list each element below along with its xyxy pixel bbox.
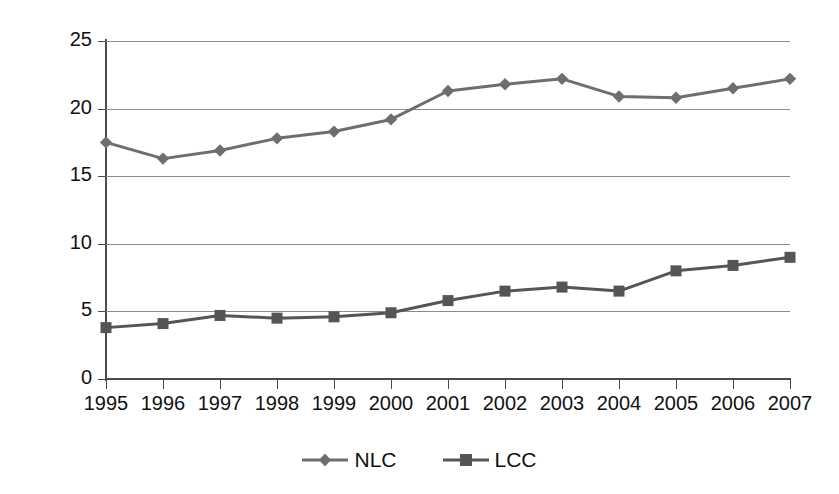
x-tick-mark: [619, 380, 620, 389]
y-tick-mark: [98, 176, 106, 177]
x-tick-mark: [277, 380, 278, 389]
x-tick-mark: [790, 380, 791, 389]
y-tick-label: 10: [46, 231, 92, 254]
y-tick-label: 20: [46, 96, 92, 119]
y-axis-tick-labels: 0510152025: [42, 41, 92, 379]
x-tick-mark: [391, 380, 392, 389]
gridline: [106, 311, 790, 312]
y-tick-mark: [98, 244, 106, 245]
x-tick-label: 2007: [755, 392, 825, 415]
legend-label-lcc: LCC: [495, 448, 537, 472]
y-tick-label: 25: [46, 28, 92, 51]
square-marker-icon: [443, 451, 489, 469]
x-tick-mark: [562, 380, 563, 389]
gridline: [106, 41, 790, 42]
gridline: [106, 109, 790, 110]
gridline: [106, 244, 790, 245]
x-tick-mark: [505, 380, 506, 389]
x-tick-mark: [733, 380, 734, 389]
y-tick-label: 15: [46, 163, 92, 186]
line-chart: USD per Enplanement 0510152025 199519961…: [0, 0, 839, 494]
legend-label-nlc: NLC: [354, 448, 396, 472]
x-tick-mark: [220, 380, 221, 389]
x-tick-mark: [448, 380, 449, 389]
gridline: [106, 176, 790, 177]
y-tick-label: 0: [46, 366, 92, 389]
x-tick-mark: [163, 380, 164, 389]
x-tick-mark: [106, 380, 107, 389]
y-tick-mark: [98, 379, 106, 380]
y-tick-mark: [98, 311, 106, 312]
plot-area: [106, 41, 790, 379]
diamond-marker-icon: [302, 451, 348, 469]
legend-item-nlc[interactable]: NLC: [302, 448, 396, 472]
legend: NLC LCC: [0, 448, 839, 472]
x-tick-mark: [334, 380, 335, 389]
y-tick-mark: [98, 41, 106, 42]
legend-item-lcc[interactable]: LCC: [443, 448, 537, 472]
y-tick-label: 5: [46, 298, 92, 321]
x-tick-mark: [676, 380, 677, 389]
y-tick-mark: [98, 109, 106, 110]
